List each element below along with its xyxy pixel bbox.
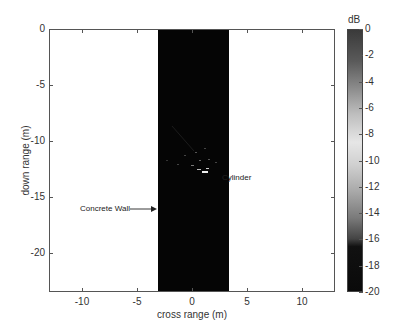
cylinder-pointer-line bbox=[172, 126, 194, 151]
cylinder-annotation: Cylinder bbox=[222, 173, 251, 182]
annotation-arrows bbox=[0, 0, 398, 336]
arrow-head-icon bbox=[151, 206, 157, 212]
wall-annotation: Concrete Wall bbox=[80, 204, 130, 213]
